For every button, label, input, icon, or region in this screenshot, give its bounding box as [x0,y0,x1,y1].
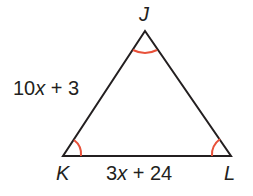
side-kl-constant: + 24 [127,162,172,184]
angle-mark-j [133,50,157,53]
angle-mark-l [212,139,220,156]
vertex-label-j: J [139,4,149,24]
vertex-label-l: L [224,163,235,183]
side-label-jk: 10x + 3 [13,78,79,98]
side-jk-coefficient: 10 [13,77,35,99]
triangle-jkl [63,31,231,156]
side-jk-constant: + 3 [45,77,79,99]
angle-mark-k [74,140,81,156]
side-kl-coefficient: 3 [106,162,117,184]
side-label-kl: 3x + 24 [106,163,172,183]
side-kl-variable: x [117,162,127,184]
vertex-label-k: K [56,163,69,183]
side-jk-variable: x [35,77,45,99]
